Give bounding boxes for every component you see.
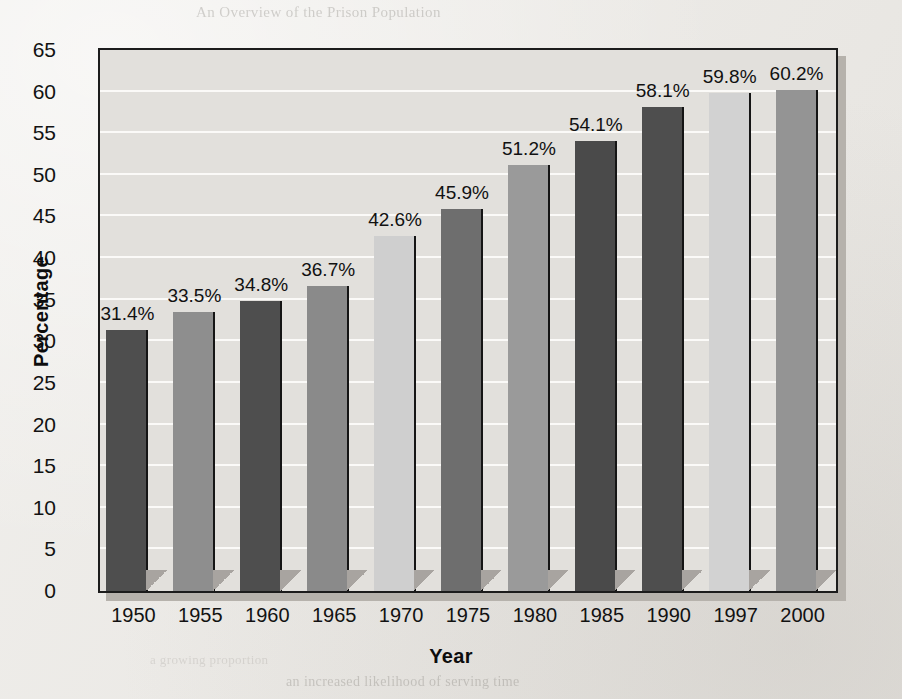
y-axis-tick-label: 55: [0, 121, 56, 145]
y-axis-tick-label: 25: [0, 371, 56, 395]
bar-base-shadow: [414, 570, 435, 591]
bar-body: [307, 286, 349, 591]
x-axis-title: Year: [0, 645, 902, 668]
bar: 33.5%: [173, 312, 215, 591]
x-axis-tick-label: 1950: [111, 604, 156, 627]
bar: 34.8%: [240, 301, 282, 591]
bar-base-shadow: [615, 570, 636, 591]
bar-body: [575, 141, 617, 591]
x-axis-tick-label: 1960: [245, 604, 290, 627]
bar-value-label: 51.2%: [502, 138, 556, 160]
bar: 42.6%: [374, 236, 416, 591]
bar-base-shadow: [481, 570, 502, 591]
x-axis-tick-label: 1975: [446, 604, 491, 627]
bar-body: [508, 165, 550, 591]
bar-value-label: 54.1%: [569, 114, 623, 136]
x-axis-tick-label: 1955: [178, 604, 223, 627]
y-axis-tick-label: 10: [0, 496, 56, 520]
bar-body: [642, 107, 684, 591]
bleed-through-text-bottom-right: an increased likelihood of serving time: [286, 674, 520, 690]
bar-body: [173, 312, 215, 591]
bar: 45.9%: [441, 209, 483, 591]
x-axis-tick-label: 1970: [379, 604, 424, 627]
bar: 54.1%: [575, 141, 617, 591]
x-axis-tick-label: 1990: [646, 604, 691, 627]
y-axis-tick-label: 20: [0, 413, 56, 437]
bar-body: [709, 93, 751, 591]
bar-body: [240, 301, 282, 591]
y-axis-tick-label: 45: [0, 204, 56, 228]
bar-body: [776, 90, 818, 591]
bar: 31.4%: [106, 330, 148, 591]
bar-base-shadow: [213, 570, 234, 591]
scanned-chart-page: An Overview of the Prison Population a g…: [0, 0, 902, 699]
y-axis-tick-label: 65: [0, 38, 56, 62]
bar-value-label: 31.4%: [101, 303, 155, 325]
x-axis-tick-label: 1997: [713, 604, 758, 627]
bar-value-label: 60.2%: [770, 63, 824, 85]
bar-body: [441, 209, 483, 591]
gridline: [100, 90, 836, 92]
bar-value-label: 36.7%: [301, 259, 355, 281]
bar-base-shadow: [749, 570, 770, 591]
y-axis-tick-label: 50: [0, 163, 56, 187]
y-axis-tick-label: 15: [0, 454, 56, 478]
bar-value-label: 42.6%: [368, 209, 422, 231]
bar: 59.8%: [709, 93, 751, 591]
bar: 51.2%: [508, 165, 550, 591]
bar-body: [106, 330, 148, 591]
bar-base-shadow: [146, 570, 167, 591]
x-axis-tick-label: 1965: [312, 604, 357, 627]
bar-base-shadow: [347, 570, 368, 591]
bar-value-label: 33.5%: [167, 285, 221, 307]
bar-base-shadow: [548, 570, 569, 591]
bar-value-label: 59.8%: [703, 66, 757, 88]
bar-base-shadow: [816, 570, 837, 591]
bar-value-label: 58.1%: [636, 80, 690, 102]
y-axis-tick-label: 5: [0, 537, 56, 561]
bar-value-label: 34.8%: [234, 274, 288, 296]
bar-body: [374, 236, 416, 591]
bar-value-label: 45.9%: [435, 182, 489, 204]
y-axis-title: Percentage: [30, 256, 53, 367]
bleed-through-text-top: An Overview of the Prison Population: [196, 4, 441, 21]
x-axis-tick-label: 1985: [580, 604, 625, 627]
y-axis-tick-label: 0: [0, 579, 56, 603]
x-axis-tick-label: 1980: [513, 604, 558, 627]
x-axis-tick-label: 2000: [780, 604, 825, 627]
bar-base-shadow: [682, 570, 703, 591]
bar: 60.2%: [776, 90, 818, 591]
bar: 36.7%: [307, 286, 349, 591]
y-axis-tick-label: 60: [0, 80, 56, 104]
bar-base-shadow: [280, 570, 301, 591]
bar: 58.1%: [642, 107, 684, 591]
